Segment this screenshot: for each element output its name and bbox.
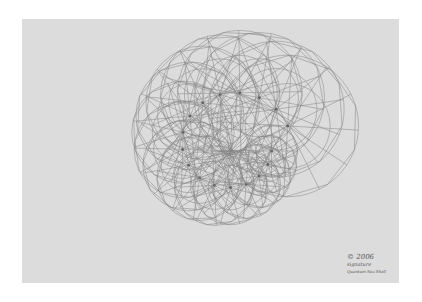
signature-block: © 2006 signature Quantum Sea Shell — [347, 254, 395, 275]
copyright-year: © 2006 — [347, 254, 395, 261]
artist-signature: signature — [347, 261, 395, 268]
artwork-title: Quantum Sea Shell — [347, 268, 395, 275]
